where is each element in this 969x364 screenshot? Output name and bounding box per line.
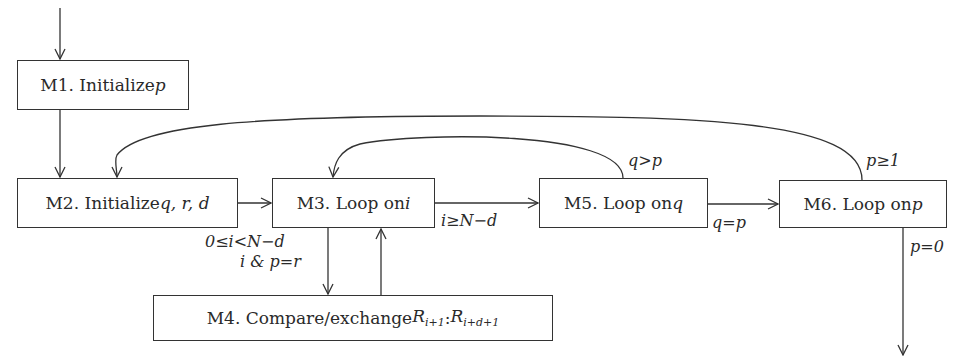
node-m4-var2: Ri+d+1 bbox=[450, 306, 499, 329]
node-m2-var: q, r, d bbox=[160, 193, 210, 213]
node-m5-var: q bbox=[672, 193, 683, 213]
node-m6-var: p bbox=[912, 194, 923, 214]
node-m2-initialize-qrd: M2. Initialize q, r, d bbox=[17, 178, 238, 228]
node-m1-initialize-p: M1. Initialize p bbox=[17, 60, 189, 110]
node-m3-var: i bbox=[405, 193, 410, 213]
node-m2-label: M2. Initialize bbox=[45, 193, 159, 213]
edge-m5-m3-loop bbox=[333, 137, 623, 178]
edge-label-m3-m4-cond2: i & p=r bbox=[240, 252, 301, 271]
edge-label-m6-end: p=0 bbox=[910, 237, 944, 256]
node-m3-label: M3. Loop on bbox=[297, 193, 405, 213]
edge-label-m3-m4-cond1: 0≤i<N−d bbox=[205, 232, 285, 251]
edge-m6-m2-loop bbox=[116, 116, 862, 180]
edge-label-m5-m3: q>p bbox=[628, 151, 662, 170]
edge-label-m5-m6: q=p bbox=[712, 213, 746, 232]
node-m6-loop-p: M6. Loop on p bbox=[779, 180, 947, 228]
edge-label-m6-m2: p≥1 bbox=[866, 151, 900, 170]
node-m5-loop-q: M5. Loop on q bbox=[539, 178, 708, 228]
node-m4-var1: Ri+1 bbox=[412, 306, 445, 329]
node-m1-label: M1. Initialize bbox=[40, 75, 154, 95]
node-m4-compare-exchange: M4. Compare/exchange Ri+1 : Ri+d+1 bbox=[153, 295, 553, 341]
node-m6-label: M6. Loop on bbox=[803, 194, 911, 214]
node-m3-loop-i: M3. Loop on i bbox=[272, 178, 435, 228]
node-m1-var: p bbox=[155, 75, 166, 95]
node-m4-label: M4. Compare/exchange bbox=[207, 308, 412, 328]
node-m5-label: M5. Loop on bbox=[564, 193, 672, 213]
edge-label-m3-m5: i≥N−d bbox=[441, 211, 497, 230]
